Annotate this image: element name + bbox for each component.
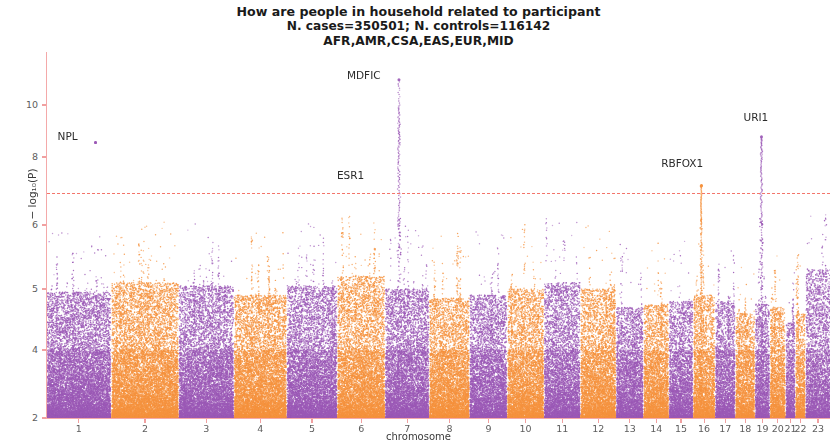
y-axis-label: − log₁₀(P) [26, 134, 38, 254]
y-tick-mark [42, 104, 46, 105]
y-tick-label: 4 [12, 344, 38, 355]
chart-title-block: How are people in household related to p… [0, 4, 837, 49]
y-tick-mark [42, 288, 46, 289]
y-tick-label: 10 [12, 99, 38, 110]
gene-label-esr1: ESR1 [337, 169, 364, 181]
chart-subtitle-ancestries: AFR,AMR,CSA,EAS,EUR,MID [0, 34, 837, 49]
gene-label-mdfic: MDFIC [347, 69, 381, 81]
gene-label-rbfox1: RBFOX1 [661, 157, 703, 169]
x-axis-spine [46, 418, 830, 419]
y-tick-mark [42, 224, 46, 225]
gene-label-uri1: URI1 [743, 111, 768, 123]
scatter-points-canvas [47, 52, 830, 419]
chart-subtitle-counts: N. cases=350501; N. controls=116142 [0, 19, 837, 34]
gene-label-npl: NPL [58, 130, 78, 142]
y-tick-label: 5 [12, 283, 38, 294]
significance-threshold-line [47, 193, 830, 194]
manhattan-plot-figure: How are people in household related to p… [0, 0, 837, 442]
chart-title: How are people in household related to p… [0, 4, 837, 19]
y-tick-mark [42, 417, 46, 418]
y-axis-spine [46, 52, 47, 419]
y-tick-mark [42, 156, 46, 157]
plot-area [47, 52, 830, 419]
y-tick-mark [42, 349, 46, 350]
x-axis-label: chromosome [0, 431, 837, 442]
y-tick-label: 2 [12, 412, 38, 423]
